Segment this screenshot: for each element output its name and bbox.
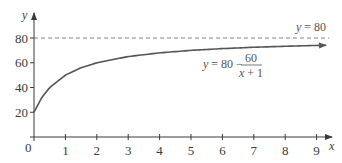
x-tick-label: 2 [94, 143, 101, 158]
asymptote-label: y = 80 [295, 20, 326, 34]
function-chart: 123456789 20406080 0 x y y = 80 y = 80 −… [0, 0, 342, 163]
y-tick-label: 20 [15, 105, 28, 120]
y-tick-label: 60 [15, 55, 28, 70]
x-ticks: 123456789 [62, 134, 320, 158]
x-tick-label: 8 [282, 143, 289, 158]
svg-text:y = 80 −: y = 80 − [202, 57, 243, 71]
x-tick-label: 7 [251, 143, 258, 158]
x-axis-label: x [328, 139, 335, 153]
x-tick-label: 6 [219, 143, 226, 158]
curve-label-denominator-rest: + 1 [244, 66, 263, 80]
x-tick-label: 9 [313, 143, 320, 158]
asymptote-label-eq: = 80 [301, 20, 326, 34]
x-tick-label: 4 [156, 143, 163, 158]
x-tick-label: 3 [125, 143, 132, 158]
y-tick-label: 40 [15, 80, 28, 95]
svg-text:x + 1: x + 1 [238, 66, 263, 80]
curve-label-numerator: 60 [245, 51, 257, 65]
x-tick-label: 5 [188, 143, 195, 158]
origin-label: 0 [25, 140, 32, 155]
y-tick-label: 80 [15, 31, 28, 46]
y-axis-label: y [21, 8, 28, 22]
curve-label-lhs: = 80 − [208, 57, 243, 71]
curve-line [34, 45, 326, 112]
y-ticks: 20406080 [15, 31, 34, 120]
x-tick-label: 1 [62, 143, 69, 158]
curve-equation-label: y = 80 − 60 x + 1 [202, 51, 263, 80]
